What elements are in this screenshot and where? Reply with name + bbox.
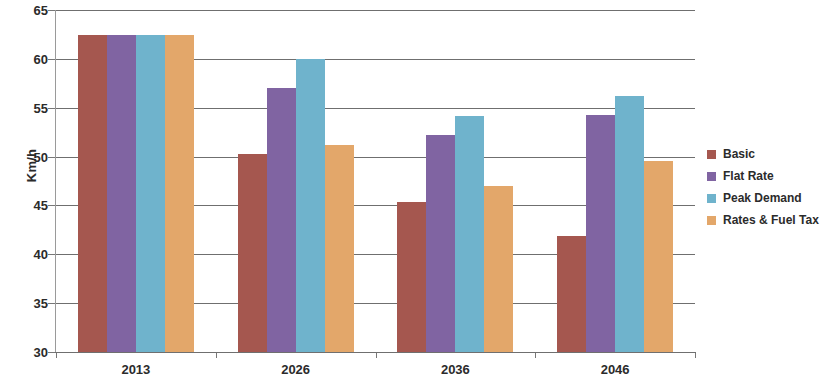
bar-2036-peak-demand[interactable] (455, 116, 484, 352)
legend-swatch-icon (707, 150, 716, 159)
y-axis-tick-mark (48, 303, 55, 304)
x-axis-tick-mark (695, 353, 696, 358)
y-axis-tick-label: 60 (4, 51, 48, 66)
y-axis-tick-labels: 3035404550556065 (0, 0, 48, 388)
bar-2036-rates-fuel-tax[interactable] (484, 186, 513, 352)
x-axis-tick-label: 2013 (76, 362, 196, 377)
legend-item-peak-demand[interactable]: Peak Demand (707, 187, 820, 209)
bar-2026-rates-fuel-tax[interactable] (325, 145, 354, 352)
legend-item-label: Basic (723, 147, 755, 161)
bar-2013-rates-fuel-tax[interactable] (165, 35, 194, 352)
bar-2046-rates-fuel-tax[interactable] (644, 161, 673, 352)
x-axis-tick-mark (216, 353, 217, 358)
bar-group-2013 (78, 10, 194, 352)
bar-2013-basic[interactable] (78, 35, 107, 352)
legend-swatch-icon (707, 194, 716, 203)
x-axis-tick-mark (56, 353, 57, 358)
legend-item-label: Peak Demand (723, 191, 802, 205)
y-axis-tick-label: 30 (4, 345, 48, 360)
y-axis-tick-mark (48, 205, 55, 206)
bar-2036-flat-rate[interactable] (426, 135, 455, 352)
bar-group-2026 (238, 10, 354, 352)
bar-2046-peak-demand[interactable] (615, 96, 644, 352)
y-axis-tick-label: 65 (4, 3, 48, 18)
legend-item-rates-fuel-tax[interactable]: Rates & Fuel Tax (707, 209, 820, 231)
y-axis-tick-mark (48, 10, 55, 11)
legend-item-label: Rates & Fuel Tax (723, 213, 819, 227)
bar-2026-basic[interactable] (238, 154, 267, 352)
legend-item-basic[interactable]: Basic (707, 143, 820, 165)
bar-2013-peak-demand[interactable] (136, 35, 165, 352)
bar-group-2046 (557, 10, 673, 352)
bar-2013-flat-rate[interactable] (107, 35, 136, 352)
x-axis-tick-mark (376, 353, 377, 358)
x-axis-tick-label: 2026 (236, 362, 356, 377)
legend-item-flat-rate[interactable]: Flat Rate (707, 165, 820, 187)
y-axis-tick-label: 35 (4, 296, 48, 311)
y-axis-tick-mark (48, 157, 55, 158)
legend-item-label: Flat Rate (723, 169, 774, 183)
x-axis-tick-label: 2046 (555, 362, 675, 377)
bar-2026-flat-rate[interactable] (267, 88, 296, 352)
bar-2026-peak-demand[interactable] (296, 59, 325, 352)
bar-2046-basic[interactable] (557, 236, 586, 352)
y-axis-tick-label: 40 (4, 247, 48, 262)
bar-group-2036 (397, 10, 513, 352)
legend-swatch-icon (707, 172, 716, 181)
bar-2036-basic[interactable] (397, 202, 426, 352)
bar-chart: Km/h 3035404550556065 BasicFlat RatePeak… (0, 0, 820, 388)
y-axis-tick-mark (48, 254, 55, 255)
chart-legend: BasicFlat RatePeak DemandRates & Fuel Ta… (707, 143, 820, 231)
x-axis-tick-mark (535, 353, 536, 358)
x-axis-tick-label: 2036 (395, 362, 515, 377)
y-axis-tick-label: 55 (4, 100, 48, 115)
y-axis-tick-label: 45 (4, 198, 48, 213)
y-axis-tick-mark (48, 352, 55, 353)
y-axis-tick-mark (48, 108, 55, 109)
y-axis-tick-label: 50 (4, 149, 48, 164)
y-axis-tick-mark (48, 59, 55, 60)
plot-area (56, 10, 695, 352)
legend-swatch-icon (707, 216, 716, 225)
bar-2046-flat-rate[interactable] (586, 115, 615, 352)
